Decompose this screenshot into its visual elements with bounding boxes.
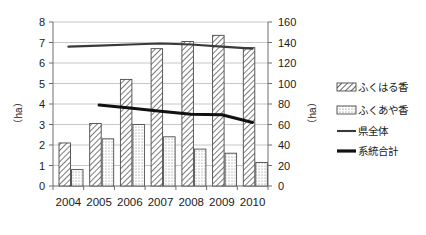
right-tick-label: 0 <box>278 180 284 192</box>
right-tick-label: 160 <box>278 16 296 28</box>
left-tick-label: 3 <box>39 119 45 131</box>
right-axis-title: （ha） <box>307 97 318 128</box>
bar <box>59 143 71 186</box>
combo-bar-line-chart: 0 1 2 3 4 5 6 7 8 0 20 40 60 80 100 120 … <box>0 0 426 235</box>
category-label: 2007 <box>148 196 174 208</box>
category-label: 2009 <box>209 196 235 208</box>
category-label: 2008 <box>178 196 204 208</box>
chart-container: 0 1 2 3 4 5 6 7 8 0 20 40 60 80 100 120 … <box>0 0 426 235</box>
legend-label: ふくはる香 <box>358 81 409 93</box>
left-tick-label: 1 <box>39 160 45 172</box>
bar <box>120 79 131 186</box>
bar <box>72 170 84 186</box>
bar <box>225 153 237 186</box>
bar <box>151 49 163 186</box>
right-tick-label: 40 <box>278 139 290 151</box>
left-axis-tick-labels: 0 1 2 3 4 5 6 7 8 <box>39 16 45 192</box>
left-tick-label: 7 <box>39 37 45 49</box>
legend-swatch-hatch-icon <box>337 83 356 91</box>
category-label: 2006 <box>117 196 143 208</box>
right-tick-label: 20 <box>278 160 290 172</box>
bar <box>102 139 114 186</box>
category-labels: 2004 2005 2006 2007 2008 2009 2010 <box>56 196 266 208</box>
legend-label: 県全体 <box>358 125 389 137</box>
category-label: 2010 <box>240 196 266 208</box>
bar <box>90 123 102 186</box>
left-tick-label: 5 <box>39 78 45 90</box>
legend-label: ふくあや香 <box>358 104 409 116</box>
left-axis-title: （ha） <box>13 97 24 128</box>
right-tick-label: 60 <box>278 119 290 131</box>
category-label: 2004 <box>56 196 82 208</box>
left-tick-label: 0 <box>39 180 45 192</box>
left-tick-label: 2 <box>39 139 45 151</box>
category-label: 2005 <box>86 196 112 208</box>
bar <box>213 35 225 186</box>
bar <box>164 137 176 186</box>
left-tick-label: 8 <box>39 16 45 28</box>
bar <box>194 149 206 186</box>
bar <box>133 125 145 187</box>
right-tick-label: 100 <box>278 78 296 90</box>
bar <box>256 162 267 186</box>
legend-label: 系統合計 <box>358 145 399 157</box>
right-tick-label: 80 <box>278 98 290 110</box>
legend-swatch-dots-icon <box>337 106 356 114</box>
right-tick-label: 140 <box>278 37 296 49</box>
bar <box>243 48 255 186</box>
right-tick-label: 120 <box>278 57 296 69</box>
left-tick-label: 6 <box>39 57 45 69</box>
left-tick-label: 4 <box>39 98 45 110</box>
